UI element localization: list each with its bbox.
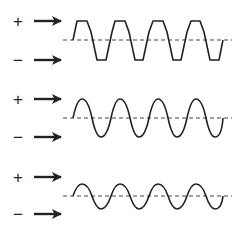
minus-label: − [13,128,23,147]
plus-label: + [13,90,23,109]
row-1-clipped-wave: + − [13,12,232,70]
minus-label: − [13,205,23,224]
minus-label: − [13,51,23,70]
small-sine-waveform [73,184,223,209]
row-2-sine-wave: + − [13,90,232,147]
row-3-small-sine-wave: + − [13,168,232,224]
plus-label: + [13,12,23,31]
waveform-diagram: + − + − + − [0,0,250,232]
plus-label: + [13,168,23,187]
